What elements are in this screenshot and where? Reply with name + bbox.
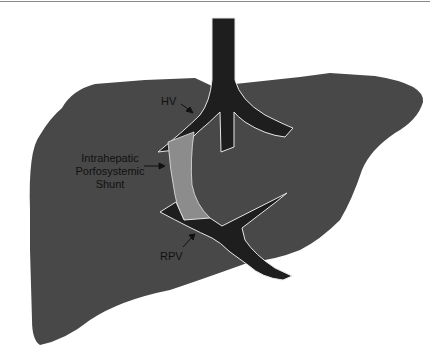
label-shunt-line1: Intrahepatic xyxy=(72,152,148,165)
label-shunt: Intrahepatic Porfosystemic Shunt xyxy=(72,152,148,191)
label-rpv: RPV xyxy=(160,250,183,263)
label-hv: HV xyxy=(161,95,176,108)
liver-diagram xyxy=(0,0,447,363)
label-shunt-line3: Shunt xyxy=(72,178,148,191)
label-shunt-line2: Porfosystemic xyxy=(72,165,148,178)
